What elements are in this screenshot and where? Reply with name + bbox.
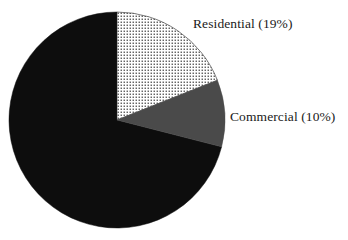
pie-chart-figure: Residential (19%) Commercial (10%) — [0, 0, 348, 240]
pie-label-commercial: Commercial (10%) — [230, 110, 335, 124]
pie-label-residential: Residential (19%) — [193, 17, 293, 31]
